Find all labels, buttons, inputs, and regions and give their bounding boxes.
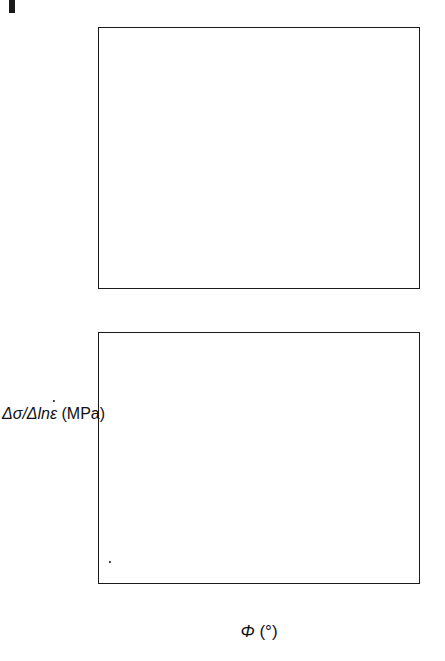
x-axis-title: Φ (°) bbox=[240, 622, 277, 642]
x-axis-symbol: Φ bbox=[240, 622, 254, 641]
y-axis-unit-top bbox=[14, 132, 18, 149]
chart-strain-rate-sensitivity bbox=[98, 332, 420, 584]
x-axis-unit: (°) bbox=[259, 622, 277, 641]
y-axis-title-top bbox=[14, 132, 18, 150]
y-axis-unit-bottom: (MPa) bbox=[57, 405, 105, 422]
axis-ticks-top bbox=[98, 27, 420, 289]
chart-sigma bbox=[98, 27, 420, 289]
figure-page: Δσ/Δlnε (MPa) Φ (°) bbox=[0, 0, 445, 661]
y-axis-delta-sigma: Δσ/Δlnε bbox=[2, 405, 57, 422]
page-edge-artifact bbox=[9, 0, 15, 13]
y-axis-title-bottom: Δσ/Δlnε (MPa) bbox=[2, 405, 105, 423]
axis-ticks-bottom bbox=[98, 332, 420, 584]
